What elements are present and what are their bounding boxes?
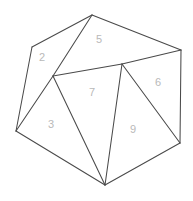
region-3-label: 3 [48,118,54,130]
polygon-subdivision-svg: 256739 [0,0,193,201]
region-5-label: 5 [96,33,102,45]
figure-canvas: 256739 [0,0,193,201]
region-9-label: 9 [130,123,136,135]
region-6-label: 6 [155,76,161,88]
region-7-label: 7 [89,86,95,98]
region-2-label: 2 [39,51,45,63]
